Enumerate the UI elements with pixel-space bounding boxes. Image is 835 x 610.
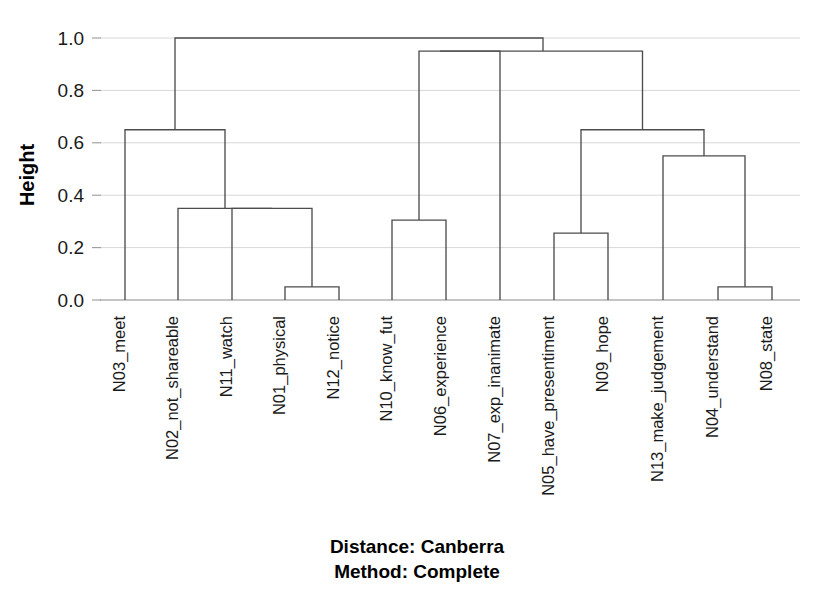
y-tick-label: 0.8: [58, 80, 84, 101]
y-tick-label: 0.0: [58, 290, 84, 311]
leaf-label: N09_hope: [593, 316, 612, 392]
leaf-label: N05_have_presentiment: [539, 316, 558, 496]
dendrogram-link: [419, 51, 500, 300]
leaf-label: N01_physical: [270, 316, 289, 415]
dendrogram-links: [125, 38, 772, 300]
leaf-label: N06_experience: [431, 316, 450, 436]
dendrogram-link: [392, 220, 446, 300]
leaf-labels: N03_meetN02_not_shareableN11_watchN01_ph…: [110, 316, 776, 496]
caption-method: Method: Complete: [334, 561, 500, 582]
y-tick-label: 1.0: [58, 28, 84, 49]
y-axis-tick-marks: [92, 38, 101, 300]
leaf-label: N07_exp_inanimate: [485, 316, 504, 463]
grid-lines: [100, 38, 800, 248]
dendrogram-link: [718, 287, 772, 300]
caption-distance: Distance: Canberra: [330, 536, 505, 557]
leaf-label: N04_understand: [703, 316, 722, 438]
dendrogram-link: [663, 156, 745, 300]
y-tick-label: 0.4: [58, 185, 85, 206]
y-tick-label: 0.6: [58, 132, 84, 153]
dendrogram-link: [178, 208, 272, 300]
leaf-label: N02_not_shareable: [163, 316, 182, 460]
y-tick-label: 0.2: [58, 237, 84, 258]
leaf-label: N10_know_fut: [377, 316, 396, 422]
y-axis-title: Height: [16, 144, 38, 207]
leaf-label: N13_make_judgement: [648, 316, 667, 482]
dendrogram-link: [581, 130, 704, 233]
leaf-label: N08_state: [757, 316, 776, 391]
dendrogram-figure: 0.00.20.40.60.81.0 Height N03_meetN02_no…: [0, 0, 835, 610]
dendrogram-link: [285, 287, 339, 300]
leaf-label: N12_notice: [324, 316, 343, 399]
y-axis-tick-labels: 0.00.20.40.60.81.0: [58, 28, 85, 311]
dendrogram-plot: 0.00.20.40.60.81.0 Height N03_meetN02_no…: [0, 0, 835, 610]
leaf-label: N11_watch: [217, 316, 236, 397]
dendrogram-link: [125, 130, 225, 300]
dendrogram-link: [554, 233, 608, 300]
leaf-label: N03_meet: [110, 316, 129, 393]
